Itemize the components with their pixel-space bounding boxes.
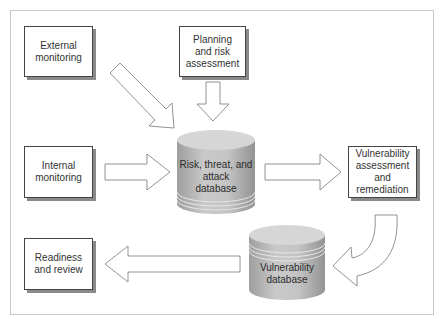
node-readiness-review: Readiness and review [24,238,93,290]
arrow-internal-to-risk-db [105,154,170,190]
node-label-line: Vulnerability [260,262,314,274]
node-planning-risk-assessment: Planning and risk assessment [179,26,246,77]
arrow-vuln-db-to-readiness [105,246,240,282]
node-label-line: Risk, threat, and [180,159,253,171]
node-label-line: Vulnerability [349,148,416,160]
node-label-line: assessment [349,160,416,172]
node-label-line: assessment [186,58,239,70]
node-label-line: and remediation [349,172,416,196]
arrow-external-to-risk-db [110,63,174,128]
node-label-line: attack [180,171,253,183]
arrow-planning-to-risk-db [197,82,229,121]
node-internal-monitoring: Internal monitoring [24,146,93,198]
vuln-db-label: Vulnerability database [249,260,325,288]
node-label-line: and risk [186,46,239,58]
node-label-line: monitoring [35,172,82,184]
arrow-vuln-assessment-to-vuln-db [333,215,397,286]
node-label-line: monitoring [35,52,82,64]
node-external-monitoring: External monitoring [24,26,93,77]
node-label-line: Readiness [34,252,82,264]
arrow-risk-db-to-vuln-assessment [265,154,341,190]
node-label-line: Planning [186,34,239,46]
node-label-line: database [260,274,314,286]
node-label-line: External [35,40,82,52]
node-label-line: Internal [35,160,82,172]
node-label-line: and review [34,264,82,276]
risk-db-label: Risk, threat, and attack database [177,155,255,199]
node-vulnerability-assessment: Vulnerability assessment and remediation [348,146,417,198]
node-label-line: database [180,183,253,195]
